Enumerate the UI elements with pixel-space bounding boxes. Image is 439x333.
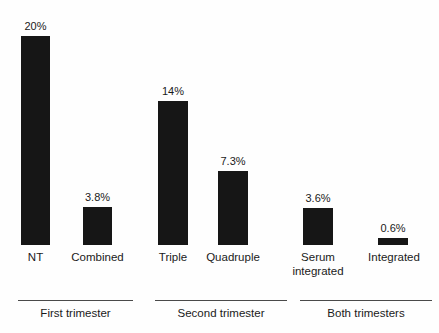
bar-value-quadruple: 7.3% (220, 155, 245, 167)
category-label-triple: Triple (143, 251, 203, 265)
group-rule-first-trimester (18, 300, 133, 301)
bar-value-combined: 3.8% (85, 191, 110, 203)
bar-group-nt: 20% (21, 0, 50, 245)
category-label-integrated: Integrated (358, 251, 430, 265)
bar-group-serum-integrated: 3.6% (303, 0, 333, 245)
bar-group-integrated: 0.6% (378, 0, 408, 245)
bar-value-serum-integrated: 3.6% (305, 192, 330, 204)
group-label-both-trimesters: Both trimesters (300, 306, 432, 320)
bar-triple[interactable] (158, 101, 188, 245)
category-label-quadruple: Quadruple (198, 251, 268, 265)
bar-integrated[interactable] (378, 238, 408, 245)
category-label-combined: Combined (63, 251, 132, 265)
group-label-second-trimester: Second trimester (155, 306, 287, 320)
group-rule-second-trimester (155, 300, 287, 301)
bar-chart: 20% 3.8% 14% 7.3% 3.6% 0.6% NT Combined … (0, 0, 439, 333)
category-label-nt: NT (5, 251, 66, 265)
bar-group-combined: 3.8% (83, 0, 112, 245)
bar-combined[interactable] (83, 207, 112, 245)
plot-area: 20% 3.8% 14% 7.3% 3.6% 0.6% (0, 0, 439, 245)
group-label-first-trimester: First trimester (18, 306, 133, 320)
bar-nt[interactable] (21, 36, 50, 245)
bar-group-quadruple: 7.3% (218, 0, 248, 245)
bar-group-triple: 14% (158, 0, 188, 245)
bar-quadruple[interactable] (218, 171, 248, 245)
bar-value-nt: 20% (24, 20, 46, 32)
category-axis: NT Combined Triple Quadruple Serum integ… (0, 245, 439, 291)
group-rule-both-trimesters (300, 300, 432, 301)
bar-value-triple: 14% (162, 85, 184, 97)
category-label-serum-integrated: Serum integrated (288, 251, 348, 278)
bar-value-integrated: 0.6% (380, 222, 405, 234)
bar-serum-integrated[interactable] (303, 208, 333, 245)
